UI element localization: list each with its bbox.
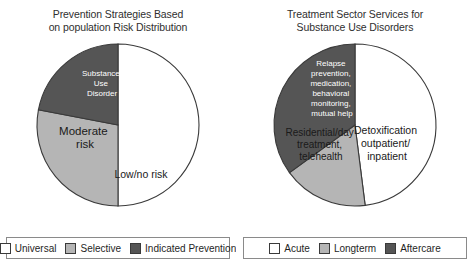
legend-label-aftercare: Aftercare [400,243,441,254]
legend-item-longterm[interactable]: Longterm [319,243,376,254]
pie-slice-low-no-risk[interactable] [118,44,199,206]
pie-wrap-treatment: Detoxification outpatient/ inpatient Res… [237,40,473,215]
legend-prevention: Universal Selective Indicated Prevention [6,237,230,259]
pie-chart-treatment: Detoxification outpatient/ inpatient Res… [270,40,440,210]
pie-label-low-no-risk: Low/no risk [114,168,168,180]
legend-item-aftercare[interactable]: Aftercare [385,243,441,254]
chart-title-prevention-line1: Prevention Strategies Based [8,8,228,21]
legend-swatch-acute [269,243,280,254]
legend-label-longterm: Longterm [334,243,376,254]
pie-wrap-prevention: Low/no risk Moderate risk Substance Use … [0,40,236,215]
panel-treatment: Treatment Sector Services for Substance … [237,0,473,266]
figure-root: Prevention Strategies Based on populatio… [0,0,473,266]
chart-title-treatment-line1: Treatment Sector Services for [245,8,465,21]
legend-label-acute: Acute [284,243,310,254]
legend-item-indicated-prevention[interactable]: Indicated Prevention [130,243,236,254]
legend-label-universal: Universal [15,243,57,254]
chart-title-prevention-line2: on population Risk Distribution [8,21,228,34]
legend-item-selective[interactable]: Selective [65,243,121,254]
legend-treatment: Acute Longterm Aftercare [243,237,467,259]
legend-label-selective: Selective [80,243,121,254]
pie-label-relapse-prevention: Relapse prevention, medication, behavior… [310,59,353,118]
legend-swatch-longterm [319,243,330,254]
legend-swatch-indicated-prevention [130,243,141,254]
legend-label-indicated-prevention: Indicated Prevention [145,243,236,254]
panel-prevention: Prevention Strategies Based on populatio… [0,0,236,266]
legend-item-acute[interactable]: Acute [269,243,310,254]
legend-swatch-selective [65,243,76,254]
legend-item-universal[interactable]: Universal [0,243,56,254]
legend-swatch-aftercare [385,243,396,254]
chart-title-prevention: Prevention Strategies Based on populatio… [8,8,228,34]
legend-swatch-universal [0,243,11,254]
chart-title-treatment-line2: Substance Use Disorders [245,21,465,34]
pie-chart-prevention: Low/no risk Moderate risk Substance Use … [33,40,203,210]
chart-title-treatment: Treatment Sector Services for Substance … [245,8,465,34]
